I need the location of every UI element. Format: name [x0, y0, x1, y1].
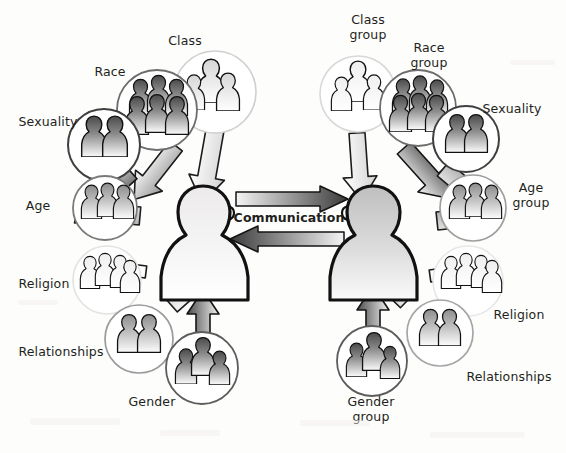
communication-arrow-right — [236, 186, 348, 212]
communication-arrow-left — [230, 226, 344, 252]
group-person-right — [330, 186, 417, 300]
individual-person-left — [161, 186, 248, 300]
node-relationships-group[interactable] — [407, 300, 473, 366]
node-gender-group[interactable] — [337, 326, 407, 396]
node-age[interactable] — [73, 176, 137, 240]
node-gender[interactable] — [166, 332, 238, 404]
diagram-canvas: Class Race Sexuality Age Religion Relati… — [0, 0, 566, 453]
node-religion[interactable] — [73, 246, 141, 314]
node-sexuality[interactable] — [68, 109, 140, 181]
node-age-group[interactable] — [440, 175, 506, 241]
node-sexuality-group[interactable] — [433, 106, 499, 172]
node-relationships[interactable] — [105, 305, 173, 373]
diagram-artwork — [0, 0, 566, 453]
